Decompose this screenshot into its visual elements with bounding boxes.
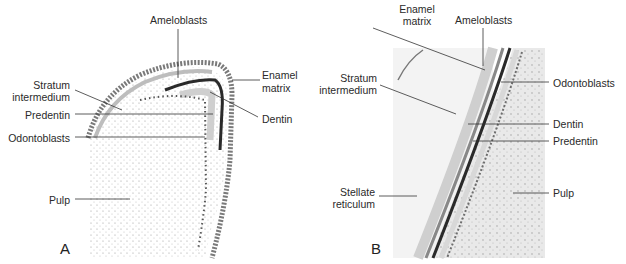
label-stratum-line1: Stratum	[14, 79, 70, 91]
tooth-section-b-image	[313, 0, 626, 264]
panel-a: Ameloblasts Enamel matrix Stratum interm…	[0, 0, 313, 264]
label-odontoblasts: Odontoblasts	[553, 77, 615, 89]
label-stellate-line1: Stellate	[319, 186, 375, 198]
label-odontoblasts: Odontoblasts	[2, 132, 70, 144]
label-ameloblasts: Ameloblasts	[150, 14, 207, 26]
label-dentin: Dentin	[553, 118, 583, 130]
label-pulp: Pulp	[553, 187, 574, 199]
label-stratum-line2: intermedium	[313, 84, 377, 96]
panel-letter-a: A	[60, 240, 70, 257]
label-stratum-line2: intermedium	[6, 91, 70, 103]
label-pulp: Pulp	[20, 194, 70, 206]
label-stratum-line1: Stratum	[319, 72, 377, 84]
label-enamel-matrix-line1: Enamel	[397, 3, 437, 15]
label-predentin: Predentin	[553, 135, 598, 147]
label-stellate-line2: reticulum	[319, 198, 375, 210]
panel-letter-b: B	[371, 240, 381, 257]
panel-b: Enamel matrix Ameloblasts Stratum interm…	[313, 0, 626, 264]
label-enamel-matrix-line1: Enamel	[262, 69, 298, 81]
label-enamel-matrix-line2: matrix	[262, 82, 291, 94]
label-ameloblasts: Ameloblasts	[455, 14, 512, 26]
label-predentin: Predentin	[6, 109, 70, 121]
label-dentin: Dentin	[262, 113, 292, 125]
label-enamel-matrix-line2: matrix	[397, 15, 437, 27]
